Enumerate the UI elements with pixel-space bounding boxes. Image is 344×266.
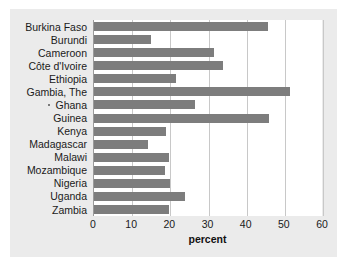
x-tick-label-50: 50	[278, 218, 290, 230]
bar-row	[94, 74, 323, 83]
category-label: Guinea	[53, 112, 87, 124]
x-tick-label-40: 40	[240, 218, 252, 230]
bar	[94, 22, 268, 31]
category-label: Malawi	[54, 151, 87, 163]
bar-row	[94, 35, 323, 44]
plot-area	[93, 20, 322, 216]
category-label: Zambia	[52, 204, 87, 216]
bar-row	[94, 48, 323, 57]
x-tick-label-30: 30	[202, 218, 214, 230]
category-label: Uganda	[50, 190, 87, 202]
category-label: Nigeria	[54, 177, 87, 189]
category-label: Gambia, The	[26, 86, 87, 98]
bar	[94, 166, 165, 175]
category-label: Cameroon	[38, 47, 87, 59]
bar	[94, 140, 148, 149]
category-label: Ethiopia	[49, 73, 87, 85]
bar-row	[94, 205, 323, 214]
bar	[94, 74, 176, 83]
bar-row	[94, 22, 323, 31]
category-label: Côte d'Ivoire	[28, 60, 87, 72]
bar-row	[94, 192, 323, 201]
gridline-60	[323, 20, 324, 216]
x-axis-tick-labels: 0102030405060	[93, 218, 322, 234]
bar-row	[94, 61, 323, 70]
bar-row	[94, 179, 323, 188]
bar	[94, 48, 214, 57]
bar	[94, 114, 269, 123]
category-label: Ghana	[55, 99, 87, 111]
category-label: Mozambique	[27, 164, 87, 176]
bar-row	[94, 114, 323, 123]
bullet-marker-icon	[48, 104, 50, 106]
bar	[94, 179, 170, 188]
bar	[94, 35, 151, 44]
bar	[94, 205, 169, 214]
bar	[94, 153, 169, 162]
x-tick-label-60: 60	[316, 218, 328, 230]
bar-row	[94, 100, 323, 109]
category-label: Burkina Faso	[25, 21, 87, 33]
category-label: Burundi	[51, 34, 87, 46]
bar	[94, 87, 290, 96]
bar	[94, 192, 185, 201]
chart-panel: Burkina FasoBurundiCameroonCôte d'Ivoire…	[10, 9, 337, 257]
bar-row	[94, 166, 323, 175]
bar	[94, 100, 195, 109]
category-label: Kenya	[57, 125, 87, 137]
x-tick-label-0: 0	[90, 218, 96, 230]
category-axis-labels: Burkina FasoBurundiCameroonCôte d'Ivoire…	[10, 20, 93, 216]
bar	[94, 61, 223, 70]
category-label: Madagascar	[29, 138, 87, 150]
x-tick-label-20: 20	[163, 218, 175, 230]
bar-row	[94, 153, 323, 162]
x-tick-label-10: 10	[125, 218, 137, 230]
bar-row	[94, 87, 323, 96]
bar-row	[94, 140, 323, 149]
x-axis-title: percent	[93, 233, 322, 245]
bars-layer	[94, 20, 322, 216]
bar-row	[94, 127, 323, 136]
bar	[94, 127, 166, 136]
